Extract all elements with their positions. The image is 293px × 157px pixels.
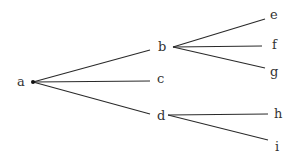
node-label-a: a <box>17 74 25 89</box>
edge-d-i <box>168 115 268 140</box>
node-label-b: b <box>158 39 166 54</box>
edge-a-c <box>33 81 150 82</box>
edge-b-f <box>173 46 262 47</box>
edge-d-h <box>168 114 268 115</box>
node-label-h: h <box>274 106 283 121</box>
tree-diagram: abcdefghi <box>0 0 293 157</box>
tree-diagram-svg: abcdefghi <box>0 0 293 157</box>
node-label-f: f <box>272 37 278 52</box>
node-label-c: c <box>157 71 164 86</box>
node-label-i: i <box>275 139 279 154</box>
edge-b-g <box>173 47 265 68</box>
node-label-d: d <box>157 108 165 123</box>
edge-a-b <box>33 50 150 82</box>
edge-a-d <box>33 82 150 114</box>
node-label-e: e <box>270 7 278 22</box>
nodes-group: abcdefghi <box>17 7 283 154</box>
node-label-g: g <box>270 64 278 79</box>
edges-group <box>31 19 268 140</box>
root-dot-icon <box>31 80 35 84</box>
edge-b-e <box>173 19 265 47</box>
